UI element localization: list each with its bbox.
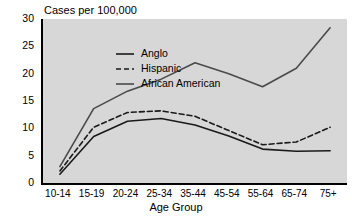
solid-line-swatch-icon xyxy=(115,49,135,59)
legend-label: African American xyxy=(141,76,220,91)
gray-line-swatch-icon xyxy=(115,79,135,89)
dashed-line-swatch-icon xyxy=(115,64,135,74)
y-tick-label: 5 xyxy=(0,150,34,161)
y-tick-label: 20 xyxy=(0,68,34,79)
series-lines xyxy=(43,19,347,183)
legend-label: Hispanic xyxy=(141,61,181,76)
y-tick-label: 30 xyxy=(0,13,34,24)
plot-area: AngloHispanicAfrican American xyxy=(41,19,347,185)
x-axis-title: Age Group xyxy=(0,201,352,213)
series-line-hispanic xyxy=(60,111,330,171)
y-tick-label: 15 xyxy=(0,95,34,106)
legend-item: Anglo xyxy=(115,46,220,61)
chart-title: Cases per 100,000 xyxy=(44,4,137,17)
legend-label: Anglo xyxy=(141,46,168,61)
y-tick-label: 0 xyxy=(0,177,34,188)
legend-item: African American xyxy=(115,76,220,91)
line-chart: Cases per 100,000 051015202530 AngloHisp… xyxy=(0,0,352,220)
legend-item: Hispanic xyxy=(115,61,220,76)
y-tick-label: 10 xyxy=(0,122,34,133)
chart-legend: AngloHispanicAfrican American xyxy=(115,46,220,91)
series-line-anglo xyxy=(60,118,330,174)
y-tick-label: 25 xyxy=(0,40,34,51)
x-tick-label: 75+ xyxy=(307,188,349,199)
